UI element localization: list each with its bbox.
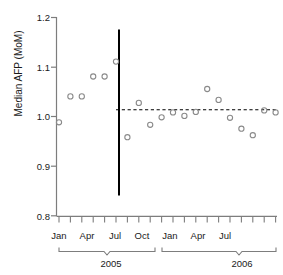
data-point (262, 108, 267, 113)
data-point (125, 135, 130, 140)
data-point (68, 94, 73, 99)
data-point-series (56, 59, 278, 140)
data-point (273, 110, 278, 115)
data-point (239, 126, 244, 131)
year-bracket-2005 (59, 248, 155, 256)
data-point (250, 133, 255, 138)
x-axis-ticks (59, 216, 276, 222)
data-point (148, 122, 153, 127)
data-point (182, 113, 187, 118)
data-point (113, 59, 118, 64)
data-point (102, 74, 107, 79)
data-point (193, 109, 198, 114)
year-bracket-2006 (162, 248, 276, 256)
chart-container: Median AFP (MoM) 1.2 1.1 1.0 0.9 0.8 Jan… (0, 0, 283, 275)
data-point (79, 94, 84, 99)
data-point (170, 110, 175, 115)
data-point (56, 120, 61, 125)
data-point (227, 115, 232, 120)
data-point (216, 97, 221, 102)
data-point (136, 100, 141, 105)
data-point (91, 74, 96, 79)
data-point (205, 86, 210, 91)
chart-plot-area (0, 0, 283, 275)
y-axis-ticks (51, 18, 57, 216)
data-point (159, 115, 164, 120)
